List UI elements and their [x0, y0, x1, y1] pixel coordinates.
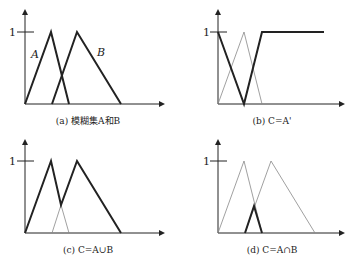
- curve-b-thin: [245, 161, 315, 233]
- caption-c: (c) C=A∪B: [63, 245, 113, 255]
- tick-label-1: 1: [9, 155, 16, 168]
- caption-b: (b) C=A': [252, 116, 291, 126]
- tick-label-1: 1: [203, 155, 210, 168]
- curve-intersection: [245, 206, 262, 233]
- curve-b: [52, 32, 121, 104]
- label-b: B: [96, 46, 105, 59]
- caption-d: (d) C=A∩B: [247, 245, 298, 255]
- curve-a: [25, 32, 69, 104]
- curve-a-thin: [218, 161, 262, 233]
- tick-label-1: 1: [203, 26, 210, 39]
- tick-label-1: 1: [9, 26, 16, 39]
- curve-complement: [218, 32, 324, 104]
- panel-d: 1 (d) C=A∩B: [203, 142, 342, 255]
- label-a: A: [30, 48, 39, 61]
- fuzzy-set-operations-figure: 1 A B (a) 模糊集A和B 1 (b) C=A' 1 (c) C=A∪B …: [0, 0, 352, 262]
- panel-b: 1 (b) C=A': [203, 12, 342, 126]
- panel-a: 1 A B (a) 模糊集A和B: [9, 12, 162, 126]
- panel-c: 1 (c) C=A∪B: [9, 142, 162, 255]
- caption-a: (a) 模糊集A和B: [56, 115, 121, 126]
- curve-union: [25, 161, 121, 233]
- curve-hidden-thin: [52, 205, 69, 233]
